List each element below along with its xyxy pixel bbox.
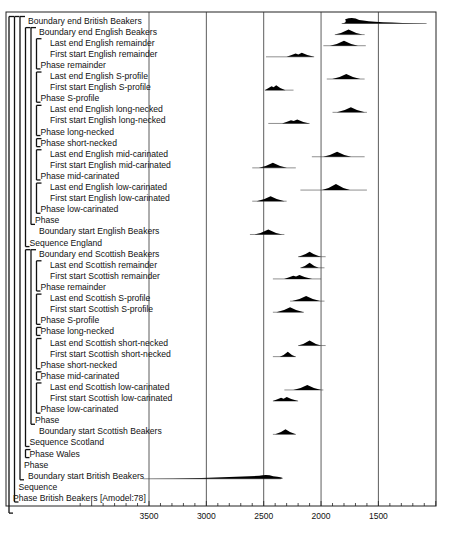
row-label: First start Scottish remainder [50, 271, 160, 281]
row-label: Phase [35, 415, 60, 425]
row-label: First start English remainder [50, 49, 158, 59]
row-label: First start English S-profile [50, 82, 151, 92]
row-label: Phase low-carinated [41, 404, 119, 414]
posterior-density [293, 385, 321, 390]
row-label: Phase mid-carinated [41, 371, 120, 381]
tick-label-2000: 2000 [312, 511, 331, 521]
oxcal-multiplot-chart: Boundary end British BeakersBoundary end… [0, 0, 450, 533]
row-label: Sequence England [30, 238, 103, 248]
row-label: Last end Scottish remainder [50, 260, 157, 270]
row-label: Boundary end British Beakers [28, 16, 142, 26]
row-label: Phase short-necked [41, 360, 118, 370]
row-label: Boundary start Scottish Beakers [39, 426, 162, 436]
posterior-density [284, 275, 312, 279]
tick-label-3500: 3500 [140, 511, 159, 521]
gridlines [149, 12, 378, 506]
posterior-density [337, 107, 365, 112]
posterior-density [254, 229, 282, 234]
posterior-density [143, 475, 283, 479]
row-label: Last end English S-profile [50, 71, 148, 81]
tick-label-3000: 3000 [197, 511, 216, 521]
row-label: Phase S-profile [41, 93, 100, 103]
posterior-density [259, 163, 287, 168]
posterior-density [323, 152, 351, 157]
row-label: Last end English low-carinated [50, 182, 167, 192]
row-label: First start Scottish S-profile [50, 304, 153, 314]
row-label: Phase remainder [41, 60, 107, 70]
row-label: Last end Scottish low-carinated [50, 382, 170, 392]
row-label: Phase S-profile [41, 315, 100, 325]
posterior-density [292, 296, 320, 301]
posterior-density [335, 30, 363, 35]
row-label: Sequence Scotland [30, 437, 105, 447]
row-label: First start Scottish low-carinated [50, 393, 172, 403]
posterior-density [265, 85, 286, 90]
row-label: First start English long-necked [50, 115, 166, 125]
row-label: Phase British Beakers [Amodel:78] [13, 493, 146, 503]
row-label: Last end English mid-carinated [50, 149, 168, 159]
row-label: Boundary end English Beakers [39, 27, 157, 37]
row-label: Boundary start British Beakers [28, 471, 144, 481]
row-label: Phase mid-carinated [41, 171, 120, 181]
posterior-density [287, 53, 315, 57]
row-label: First start English low-carinated [50, 193, 170, 203]
row-label: Boundary start English Beakers [39, 226, 159, 236]
posterior-density [342, 18, 427, 23]
row-label: Phase short-necked [41, 138, 118, 148]
posterior-density [298, 252, 321, 257]
posterior-distributions [143, 18, 426, 479]
posterior-density [300, 263, 318, 268]
row-label: Phase low-carinated [41, 204, 119, 214]
row-label: Last end Scottish S-profile [50, 293, 151, 303]
row-label: Phase Wales [30, 449, 80, 459]
row-label: Phase remainder [41, 282, 107, 292]
row-label: Phase [24, 460, 49, 470]
posterior-density [330, 41, 358, 46]
posterior-density [273, 397, 298, 401]
posterior-density [332, 74, 360, 79]
posterior-density [280, 352, 296, 357]
row-label: Last end Scottish short-necked [50, 338, 168, 348]
row-label: Last end English remainder [50, 38, 155, 48]
posterior-density [275, 429, 296, 434]
row-label: Boundary end Scottish Beakers [39, 249, 159, 259]
x-axis: 35003000250020001500 [80, 501, 436, 521]
row-label: First start Scottish short-necked [50, 349, 171, 359]
tick-label-1500: 1500 [369, 511, 388, 521]
row-label: First start English mid-carinated [50, 160, 171, 170]
posterior-density [298, 341, 321, 346]
posterior-density [257, 196, 285, 201]
posterior-density [276, 307, 304, 312]
row-label: Sequence [19, 482, 58, 492]
posterior-density [282, 119, 310, 123]
row-label: Phase long-necked [41, 127, 115, 137]
tick-label-2500: 2500 [254, 511, 273, 521]
row-label: Phase [35, 215, 60, 225]
row-label: Phase long-necked [41, 326, 115, 336]
posterior-density [322, 184, 350, 190]
row-label: Last end English long-necked [50, 104, 163, 114]
